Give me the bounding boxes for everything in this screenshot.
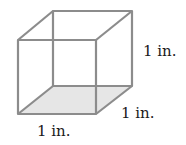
cube-edge xyxy=(18,11,53,40)
cube-diagram: 1 in. 1 in. 1 in. xyxy=(0,0,186,145)
depth-label: 1 in. xyxy=(121,106,155,121)
height-label: 1 in. xyxy=(143,44,177,59)
cube-back-face xyxy=(53,11,132,86)
cube-edge xyxy=(96,11,132,40)
cube-drawing xyxy=(0,0,186,145)
width-label: 1 in. xyxy=(37,124,71,139)
